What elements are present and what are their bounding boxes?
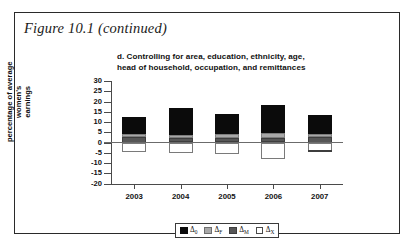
x-tick-2003 (134, 184, 135, 189)
y-tick--5 (104, 153, 111, 154)
y-tick--20 (104, 184, 111, 185)
y-tick-30 (104, 81, 111, 82)
legend-swatch-dM (229, 227, 237, 235)
bar-segment-deltaM-negative-2007 (308, 150, 332, 152)
y-axis-line (111, 81, 112, 184)
y-tick-5 (104, 132, 111, 133)
legend-item-dF: ΔF (204, 225, 222, 235)
bar-segment-delta0-2006 (261, 105, 285, 133)
bar-segment-delta0-2005 (215, 114, 239, 135)
y-tick-20 (104, 102, 111, 103)
chart-plot-area: percentage of average women's earnings 3… (0, 0, 416, 248)
y-tick-label-5: 5 (56, 128, 102, 136)
legend-label-dF: ΔF (214, 225, 222, 235)
bar-segment-delta0-2004 (169, 108, 193, 136)
y-tick-10 (104, 122, 111, 123)
x-tick-label-2005: 2005 (205, 192, 249, 201)
x-tick-label-2007: 2007 (298, 192, 342, 201)
y-tick-label--10: -10 (56, 159, 102, 167)
legend-label-dX: ΔX (266, 225, 275, 235)
y-tick-25 (104, 91, 111, 92)
y-tick-label-0: 0 (56, 139, 102, 147)
legend-label-dM: ΔM (239, 225, 249, 235)
legend-item-dM: ΔM (229, 225, 249, 235)
zero-baseline (104, 142, 343, 143)
y-tick-15 (104, 112, 111, 113)
bar-segment-deltaX-2006 (261, 143, 285, 160)
legend-label-d0: Δ0 (190, 225, 197, 235)
bar-segment-delta0-2007 (308, 115, 332, 135)
bar-segment-delta0-2003 (122, 117, 146, 134)
legend-swatch-dF (204, 227, 212, 235)
x-tick-2006 (273, 184, 274, 189)
legend-swatch-dX (256, 227, 264, 235)
legend-item-dX: ΔX (256, 225, 275, 235)
x-tick-label-2003: 2003 (112, 192, 156, 201)
y-tick--10 (104, 163, 111, 164)
y-axis-label: percentage of average women's earnings (5, 47, 33, 157)
bar-segment-deltaX-2004 (169, 143, 193, 154)
y-tick-label-20: 20 (56, 98, 102, 106)
x-tick-label-2006: 2006 (251, 192, 295, 201)
y-tick-label--15: -15 (56, 169, 102, 177)
y-tick--15 (104, 173, 111, 174)
x-tick-2007 (320, 184, 321, 189)
figure-page: Figure 10.1 (continued) d. Controlling f… (0, 0, 416, 248)
y-tick-label--5: -5 (56, 149, 102, 157)
y-tick-label-30: 30 (56, 77, 102, 85)
y-tick-label-25: 25 (56, 87, 102, 95)
y-tick-label-15: 15 (56, 108, 102, 116)
bar-segment-deltaX-2005 (215, 143, 239, 154)
y-axis-label-line-1: percentage of average women's (5, 61, 23, 142)
legend-swatch-d0 (180, 227, 188, 235)
y-axis-label-line-2: earnings (24, 86, 33, 118)
x-tick-label-2004: 2004 (159, 192, 203, 201)
x-tick-2005 (227, 184, 228, 189)
bar-segment-deltaX-2003 (122, 143, 146, 152)
chart-legend: Δ0ΔFΔMΔX (175, 223, 279, 238)
legend-item-d0: Δ0 (180, 225, 197, 235)
y-tick-label--20: -20 (56, 180, 102, 188)
x-tick-2004 (181, 184, 182, 189)
y-tick-label-10: 10 (56, 118, 102, 126)
